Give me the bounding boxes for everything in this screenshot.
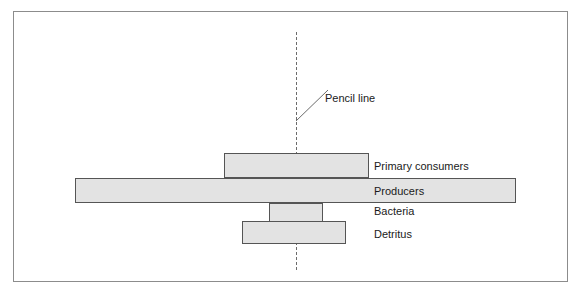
label-primary-consumers: Primary consumers bbox=[374, 161, 469, 172]
diagram-canvas: Pencil line Primary consumers Producers … bbox=[0, 0, 583, 292]
label-producers: Producers bbox=[374, 186, 424, 197]
bar-primary-consumers bbox=[224, 153, 369, 178]
bar-detritus bbox=[242, 221, 346, 244]
bar-producers bbox=[75, 178, 516, 203]
pencil-line-label: Pencil line bbox=[325, 93, 375, 104]
label-bacteria: Bacteria bbox=[374, 206, 414, 217]
label-detritus: Detritus bbox=[374, 229, 412, 240]
bar-bacteria bbox=[269, 203, 323, 222]
figure-screenshot: Pencil line Primary consumers Producers … bbox=[0, 0, 583, 292]
